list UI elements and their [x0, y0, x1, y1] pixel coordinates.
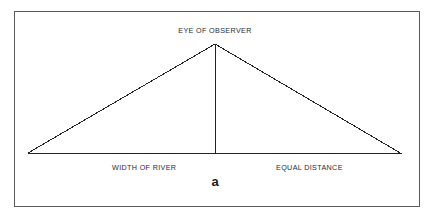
label-eye-of-observer: EYE OF OBSERVER: [178, 27, 251, 34]
label-equal-distance: EQUAL DISTANCE: [276, 164, 343, 171]
diagram-canvas: EYE OF OBSERVER WIDTH OF RIVER EQUAL DIS…: [0, 0, 435, 220]
right-sight-line: [215, 44, 402, 154]
label-width-of-river: WIDTH OF RIVER: [112, 164, 176, 171]
figure-caption: a: [211, 175, 218, 188]
baseline: [28, 153, 402, 154]
left-sight-line: [28, 44, 215, 153]
